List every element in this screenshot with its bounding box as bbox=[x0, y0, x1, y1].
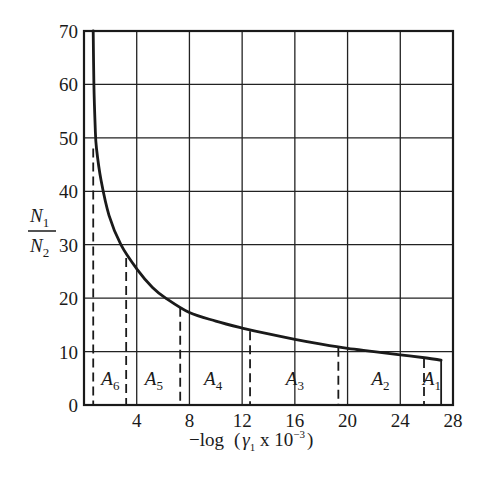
region-label: A4 bbox=[202, 368, 223, 393]
x-tick-label: 28 bbox=[444, 410, 463, 431]
y-tick-label: 30 bbox=[59, 235, 78, 256]
y-tick-label: 10 bbox=[59, 342, 78, 363]
y-tick-label: 70 bbox=[59, 21, 78, 42]
grid-lines bbox=[84, 31, 453, 405]
y-tick-label: 0 bbox=[69, 395, 79, 416]
data-curve bbox=[93, 31, 441, 360]
y-label-denominator: N2 bbox=[29, 235, 49, 260]
plot-frame bbox=[84, 31, 453, 405]
x-axis-label: −log(γ1 x 10−3) bbox=[189, 428, 313, 453]
y-axis-ticks: 010203040506070 bbox=[59, 21, 78, 416]
chart: 010203040506070 481216202428 A6A5A4A3A2A… bbox=[0, 0, 485, 480]
region-label: A5 bbox=[143, 368, 163, 393]
region-label: A6 bbox=[99, 368, 120, 393]
y-axis-label: N1 N2 bbox=[28, 205, 56, 260]
y-tick-label: 20 bbox=[59, 288, 78, 309]
x-tick-label: 8 bbox=[185, 410, 195, 431]
x-tick-label: 20 bbox=[338, 410, 357, 431]
region-label: A3 bbox=[284, 368, 304, 393]
y-tick-label: 50 bbox=[59, 128, 78, 149]
y-tick-label: 60 bbox=[59, 74, 78, 95]
region-labels: A6A5A4A3A2A1 bbox=[99, 368, 441, 393]
x-tick-label: 12 bbox=[233, 410, 252, 431]
y-tick-label: 40 bbox=[59, 181, 78, 202]
region-label: A2 bbox=[369, 368, 389, 393]
x-tick-label: 4 bbox=[132, 410, 142, 431]
region-dividers bbox=[93, 149, 441, 405]
x-tick-label: 24 bbox=[391, 410, 411, 431]
y-label-numerator: N1 bbox=[29, 205, 49, 230]
